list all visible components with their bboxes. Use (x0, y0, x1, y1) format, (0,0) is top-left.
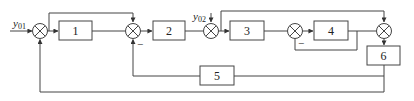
summing-junction-2 (126, 24, 141, 39)
block-5-label: 5 (214, 69, 220, 83)
input-y02-label: y02 (192, 10, 206, 24)
summing-junction-5 (377, 24, 392, 39)
block-1-label: 1 (73, 24, 79, 38)
summing-junction-3 (204, 24, 219, 39)
block-2-label: 2 (166, 24, 172, 38)
block-diagram: 1 2 3 4 5 6 y01 y02 − − (0, 0, 414, 101)
minus-sign-j4: − (298, 37, 304, 49)
block-4-label: 4 (328, 24, 334, 38)
block-6-label: 6 (381, 49, 387, 63)
summing-junction-1 (33, 24, 48, 39)
input-y01-label: y01 (12, 17, 26, 31)
block-3-label: 3 (244, 24, 250, 38)
minus-sign-j2: − (137, 38, 143, 50)
